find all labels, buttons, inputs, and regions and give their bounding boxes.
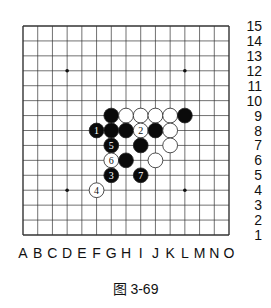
stone-disc xyxy=(119,153,134,168)
white-stone xyxy=(163,138,178,153)
row-label: 11 xyxy=(247,78,262,94)
column-label: I xyxy=(139,245,143,261)
white-stone xyxy=(119,108,134,123)
stone-disc xyxy=(119,108,134,123)
figure-caption: 图 3-69 xyxy=(0,278,271,298)
stone-disc xyxy=(148,123,163,138)
black-stone xyxy=(119,153,134,168)
black-stone xyxy=(104,123,119,138)
row-label: 9 xyxy=(254,108,262,124)
stone-disc xyxy=(133,108,148,123)
move-number: 5 xyxy=(109,140,114,151)
column-label: B xyxy=(33,245,42,261)
column-label: M xyxy=(194,245,206,261)
row-label: 4 xyxy=(254,182,262,198)
column-label: H xyxy=(121,245,131,261)
stone-disc xyxy=(163,138,178,153)
stone-disc xyxy=(148,108,163,123)
black-stone: 7 xyxy=(133,168,148,183)
row-label: 3 xyxy=(254,197,262,213)
column-label: F xyxy=(92,245,101,261)
black-stone: 3 xyxy=(104,168,119,183)
move-number: 3 xyxy=(109,170,114,181)
column-label: C xyxy=(47,245,57,261)
row-label: 13 xyxy=(246,48,262,64)
row-label: 12 xyxy=(246,63,262,79)
column-label: O xyxy=(224,245,235,261)
white-stone: 2 xyxy=(133,123,148,138)
column-labels: ABCDEFGHIJKLMNO xyxy=(18,245,234,261)
white-stone xyxy=(148,108,163,123)
black-stone xyxy=(133,138,148,153)
move-number: 4 xyxy=(94,185,99,196)
stone-disc xyxy=(104,123,119,138)
move-number: 1 xyxy=(94,125,99,136)
column-label: G xyxy=(106,245,117,261)
star-point xyxy=(65,188,69,192)
stone-disc xyxy=(119,123,134,138)
row-label: 2 xyxy=(254,212,262,228)
stone-disc xyxy=(163,108,178,123)
stone-disc xyxy=(163,123,178,138)
row-label: 8 xyxy=(254,123,262,139)
row-label: 6 xyxy=(254,152,262,168)
black-stone xyxy=(119,123,134,138)
column-label: K xyxy=(165,245,175,261)
white-stone xyxy=(133,108,148,123)
column-label: J xyxy=(152,245,159,261)
column-label: D xyxy=(62,245,72,261)
move-number: 7 xyxy=(138,170,143,181)
white-stone xyxy=(163,123,178,138)
row-label: 7 xyxy=(254,137,262,153)
column-label: E xyxy=(77,245,86,261)
white-stone: 4 xyxy=(89,183,104,198)
move-number: 6 xyxy=(109,155,114,166)
white-stone: 6 xyxy=(104,153,119,168)
column-label: A xyxy=(18,245,28,261)
move-number: 2 xyxy=(138,125,143,136)
column-label: N xyxy=(209,245,219,261)
star-point xyxy=(183,69,187,73)
black-stone xyxy=(148,123,163,138)
stone-disc xyxy=(104,108,119,123)
black-stone xyxy=(177,108,192,123)
stone-disc xyxy=(148,153,163,168)
stone-disc xyxy=(177,108,192,123)
row-label: 1 xyxy=(254,227,262,243)
row-label: 10 xyxy=(246,93,262,109)
row-label: 14 xyxy=(246,33,262,49)
star-point xyxy=(65,69,69,73)
column-label: L xyxy=(181,245,189,261)
gomoku-board: 1256374 ABCDEFGHIJKLMNO 1234567891011121… xyxy=(0,0,271,308)
black-stone xyxy=(104,108,119,123)
stone-disc xyxy=(133,138,148,153)
row-label: 15 xyxy=(246,18,262,34)
row-labels: 123456789101112131415 xyxy=(246,18,262,243)
white-stone xyxy=(148,153,163,168)
black-stone: 5 xyxy=(104,138,119,153)
star-point xyxy=(183,188,187,192)
black-stone: 1 xyxy=(89,123,104,138)
row-label: 5 xyxy=(254,167,262,183)
white-stone xyxy=(163,108,178,123)
